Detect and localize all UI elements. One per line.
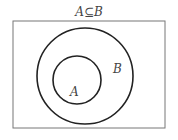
- set-b-circle: [37, 28, 133, 124]
- set-b-label: B: [112, 62, 122, 76]
- diagram-title: A⊆B: [74, 5, 103, 19]
- universe-rectangle: [13, 21, 165, 128]
- venn-diagram: A⊆B B A: [0, 0, 178, 140]
- set-a-label: A: [69, 85, 79, 99]
